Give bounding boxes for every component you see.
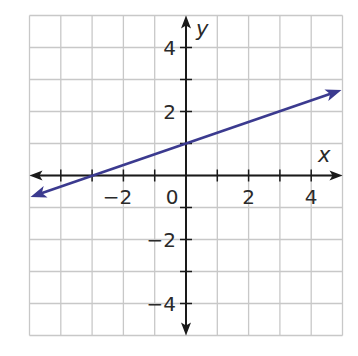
- x-axis-label: x: [317, 143, 331, 167]
- y-tick-label: −4: [147, 292, 176, 316]
- coordinate-plane: −202442−2−4 x y: [0, 0, 358, 356]
- x-tick-label: 2: [242, 185, 255, 209]
- axes: [30, 16, 343, 336]
- y-axis-label: y: [195, 17, 209, 41]
- y-tick-label: −2: [147, 228, 176, 252]
- x-tick-label: 0: [166, 185, 179, 209]
- y-tick-label: 2: [163, 100, 176, 124]
- x-tick-label: 4: [305, 185, 318, 209]
- y-tick-label: 4: [163, 36, 176, 60]
- x-tick-label: −2: [103, 185, 132, 209]
